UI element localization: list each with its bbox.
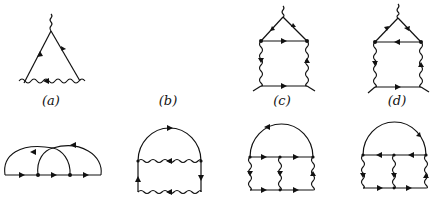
diagram-bottom-c bbox=[247, 124, 316, 193]
diagram-bottom-a bbox=[5, 142, 102, 178]
label-d: (d) bbox=[388, 93, 406, 108]
cropped-caption-text bbox=[0, 0, 438, 3]
diagram-top-d bbox=[368, 4, 429, 93]
label-a: (a) bbox=[42, 93, 60, 108]
feynman-diagram-figure: (a) (b) (c) (d) bbox=[0, 0, 438, 197]
diagram-bottom-b bbox=[135, 125, 204, 195]
label-c: (c) bbox=[273, 93, 290, 108]
diagrams-canvas bbox=[0, 0, 438, 197]
diagram-top-a bbox=[19, 14, 85, 84]
diagram-top-c bbox=[253, 6, 315, 91]
diagram-bottom-d bbox=[360, 122, 429, 191]
label-b: (b) bbox=[159, 93, 177, 108]
